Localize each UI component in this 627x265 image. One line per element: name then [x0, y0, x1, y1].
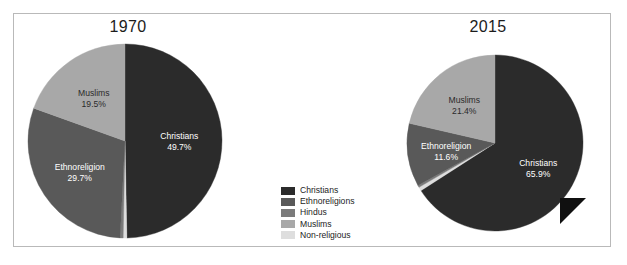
legend-item-label: Non-religious [300, 230, 351, 241]
legend-item-ethnoreligions[interactable]: Ethnoreligions [281, 196, 385, 207]
corner-mask [597, 235, 627, 265]
legend-item-christians[interactable]: Christians [281, 185, 385, 196]
legend-item-label: Muslims [300, 219, 332, 230]
pie-slice-christians[interactable] [125, 44, 222, 238]
legend-swatch-icon [281, 231, 295, 239]
legend-item-hindus[interactable]: Hindus [281, 207, 385, 218]
chart-title-2015: 2015 [438, 18, 538, 36]
chart-title-1970: 1970 [78, 18, 178, 36]
legend-swatch-icon [281, 209, 295, 217]
corner-artifact [560, 198, 586, 224]
legend-swatch-icon [281, 187, 295, 195]
figure-canvas: 1970 Christians49.7%Ethnoreligion29.7%Mu… [0, 0, 627, 265]
legend: ChristiansEthnoreligionsHindusMuslimsNon… [281, 185, 385, 241]
pie-chart-1970: Christians49.7%Ethnoreligion29.7%Muslims… [27, 43, 223, 239]
legend-swatch-icon [281, 220, 295, 228]
legend-item-label: Ethnoreligions [300, 196, 354, 207]
legend-item-muslims[interactable]: Muslims [281, 219, 385, 230]
legend-swatch-icon [281, 198, 295, 206]
legend-item-label: Christians [300, 185, 338, 196]
pie-svg: Christians65.9%Ethnoreligion11.6%Muslims… [406, 54, 584, 232]
legend-item-label: Hindus [300, 207, 327, 218]
legend-item-non-religious[interactable]: Non-religious [281, 230, 385, 241]
pie-chart-2015: Christians65.9%Ethnoreligion11.6%Muslims… [406, 54, 584, 232]
pie-svg: Christians49.7%Ethnoreligion29.7%Muslims… [27, 43, 223, 239]
